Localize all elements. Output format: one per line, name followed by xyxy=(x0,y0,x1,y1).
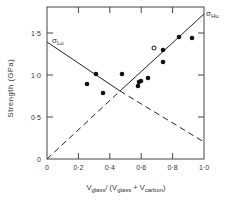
data-points-open xyxy=(152,46,156,50)
x-tick-0.4: 0·4 xyxy=(105,164,115,171)
plot-frame xyxy=(47,7,204,159)
y-tick-1.5: 1·5 xyxy=(31,30,41,37)
x-tick-0: 0 xyxy=(45,164,49,171)
y-tick-0.5: 0·5 xyxy=(31,114,41,121)
x-tick-1.0: 1·0 xyxy=(199,164,209,171)
strength-chart: 0 0·2 0·4 0·6 0·8 1·0 0 0·5 1·0 1·5 Stre… xyxy=(0,0,232,201)
sigma-hu-annotation: σHu xyxy=(206,9,219,19)
x-axis-label: Vglass/ (Vglass + Vcarbon) xyxy=(86,183,166,193)
sigma-lu-annotation: σLu xyxy=(52,36,64,46)
sigma-lu-line xyxy=(47,42,204,142)
x-axis-ticks xyxy=(78,7,172,159)
x-tick-0.2: 0·2 xyxy=(73,164,83,171)
y-axis-label: Strength (GPa) xyxy=(6,59,15,118)
x-tick-0.8: 0·8 xyxy=(168,164,178,171)
y-axis-ticks xyxy=(47,33,204,117)
y-tick-0: 0 xyxy=(37,156,41,163)
y-tick-labels: 0 0·5 1·0 1·5 xyxy=(31,30,41,163)
x-tick-labels: 0 0·2 0·4 0·6 0·8 1·0 xyxy=(45,164,209,171)
x-tick-0.6: 0·6 xyxy=(136,164,146,171)
data-points-filled xyxy=(85,35,195,96)
y-tick-1.0: 1·0 xyxy=(31,72,41,79)
